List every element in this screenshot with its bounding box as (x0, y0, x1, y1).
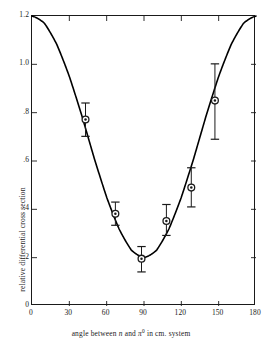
x-tick-label: 0 (29, 308, 33, 317)
y-axis-title: relative differential cross section (18, 160, 27, 320)
y-tick-label: .8 (23, 108, 29, 116)
plot-canvas (32, 16, 256, 306)
data-point-marker (112, 210, 119, 217)
x-axis-title-part: angle between (72, 329, 119, 338)
x-axis-title: angle between n and π0 in cm. system (0, 329, 262, 338)
fitted-curve (32, 16, 256, 258)
x-tick-label: 180 (249, 308, 261, 317)
figure: 0.2.4.6.81.01.2 relative differential cr… (0, 0, 262, 350)
x-axis-title-part: in cm. system (145, 329, 191, 338)
data-point-marker (138, 255, 145, 262)
data-point-marker (188, 184, 195, 191)
y-tick-label: 1.2 (19, 11, 29, 19)
x-tick-label: 60 (102, 308, 110, 317)
plot-frame (31, 15, 255, 305)
data-point-marker (82, 116, 89, 123)
x-tick-label: 120 (175, 308, 187, 317)
x-tick-label: 150 (212, 308, 224, 317)
data-point-marker (212, 97, 219, 104)
x-tick-label: 90 (139, 308, 147, 317)
error-bars (81, 64, 219, 272)
data-points (82, 97, 218, 262)
x-tick-label: 30 (64, 308, 72, 317)
x-axis-tick-labels: 0306090120150180 (0, 308, 262, 322)
data-point-marker (163, 218, 170, 225)
x-axis-title-part: and (123, 329, 138, 338)
y-axis-title-container: relative differential cross section (2, 80, 16, 260)
y-tick-label: 1.0 (19, 59, 29, 67)
axis-ticks (32, 16, 256, 306)
